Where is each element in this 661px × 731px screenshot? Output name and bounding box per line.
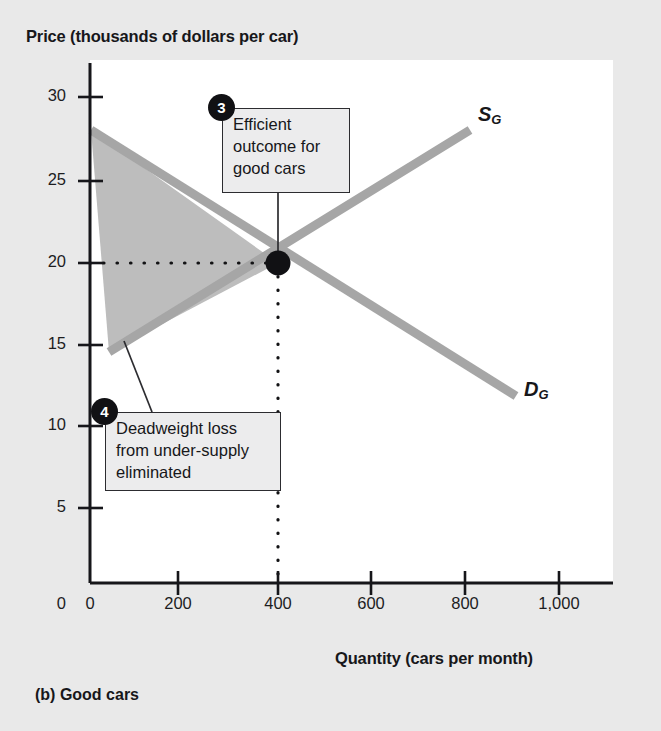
callout-4-line-1: Deadweight loss [116,418,272,440]
x-tick-label-600: 600 [341,594,401,613]
panel-caption: (b) Good cars [35,686,139,704]
demand-curve-letter: D [524,378,538,400]
y-tick-label-5: 5 [26,497,66,516]
y-axis-title: Price (thousands of dollars per car) [26,27,298,46]
callout-3-line-1: Efficient [233,114,341,136]
y-tick-label-20: 20 [26,252,66,271]
callout-efficient-outcome: Efficient outcome for good cars [222,108,350,193]
callout-3-number-badge: 3 [208,94,235,121]
y-tick-label-30: 30 [26,86,66,105]
callout-4-line-3: eliminated [116,462,272,484]
x-tick-label-1000: 1,000 [529,594,589,613]
x-axis-title: Quantity (cars per month) [335,649,533,668]
supply-curve-letter: S [478,103,491,125]
demand-curve-subscript: G [538,387,548,402]
y-tick-label-10: 10 [26,415,66,434]
plot-panel [90,60,613,583]
callout-deadweight-loss: Deadweight loss from under-supply elimin… [105,412,281,491]
callout-3-line-3: good cars [233,158,341,180]
figure-good-cars: Price (thousands of dollars per car) Qua… [0,0,661,731]
equilibrium-point-marker [266,251,291,276]
x-tick-label-800: 800 [435,594,495,613]
y-tick-label-15: 15 [26,334,66,353]
supply-curve-label: SG [478,103,501,127]
x-tick-label-400: 400 [248,594,308,613]
callout-4-line-2: from under-supply [116,440,272,462]
callout-4-number-badge: 4 [91,398,118,425]
demand-curve-label: DG [524,378,549,402]
x-tick-label-200: 200 [148,594,208,613]
x-tick-label-0: 0 [60,594,120,613]
callout-3-line-2: outcome for [233,136,341,158]
y-tick-label-25: 25 [26,170,66,189]
supply-curve-subscript: G [491,112,501,127]
